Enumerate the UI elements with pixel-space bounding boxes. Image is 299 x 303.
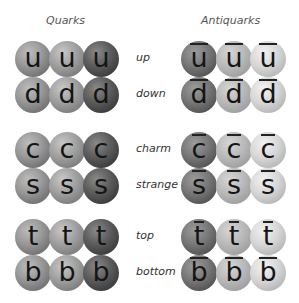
quark-ball-b: b xyxy=(49,255,85,291)
quark-ball-b: b xyxy=(15,255,51,291)
antiquark-symbol: c xyxy=(261,134,276,162)
antiquark-ball-t: t xyxy=(216,219,252,255)
quark-ball-c: c xyxy=(49,132,85,168)
flavor-label-up: up xyxy=(136,51,150,64)
quark-ball-d: d xyxy=(83,77,119,113)
quark-ball-c: c xyxy=(83,132,119,168)
quark-ball-t: t xyxy=(15,219,51,255)
antiquark-symbol: t xyxy=(194,221,205,249)
antiquark-symbol: b xyxy=(259,257,276,285)
quark-symbol: d xyxy=(58,80,75,107)
quark-symbol: d xyxy=(92,80,109,107)
antiquark-symbol: c xyxy=(227,134,242,162)
antiquark-symbol: s xyxy=(227,170,241,198)
quark-ball-s: s xyxy=(83,168,119,204)
antiquark-symbol: u xyxy=(190,43,207,71)
quark-symbol: t xyxy=(96,222,107,249)
antiquark-symbol: d xyxy=(225,79,242,107)
quark-ball-b: b xyxy=(83,255,119,291)
antiquark-ball-b: b xyxy=(216,255,252,291)
antiquark-ball-d: d xyxy=(181,77,217,113)
antiquark-ball-d: d xyxy=(250,77,286,113)
quark-ball-c: c xyxy=(15,132,51,168)
quark-symbol: c xyxy=(94,135,109,162)
heading-antiquarks: Antiquarks xyxy=(201,14,260,27)
antiquark-ball-t: t xyxy=(250,219,286,255)
quark-symbol: c xyxy=(60,135,75,162)
antiquark-symbol: b xyxy=(190,257,207,285)
quark-symbol: c xyxy=(26,135,41,162)
heading-quarks: Quarks xyxy=(46,14,85,27)
flavor-label-charm: charm xyxy=(136,142,171,155)
antiquark-symbol: d xyxy=(190,79,207,107)
quark-ball-d: d xyxy=(15,77,51,113)
antiquark-symbol: u xyxy=(259,43,276,71)
antiquark-ball-s: s xyxy=(250,168,286,204)
flavor-label-down: down xyxy=(136,87,166,100)
antiquark-symbol: s xyxy=(261,170,275,198)
antiquark-symbol: u xyxy=(225,43,242,71)
quark-symbol: s xyxy=(60,171,74,198)
antiquark-ball-c: c xyxy=(181,132,217,168)
quark-ball-s: s xyxy=(49,168,85,204)
quark-symbol: u xyxy=(24,44,41,71)
antiquark-ball-s: s xyxy=(216,168,252,204)
quark-symbol: u xyxy=(92,44,109,71)
quark-symbol: s xyxy=(26,171,40,198)
quark-ball-u: u xyxy=(49,41,85,77)
antiquark-ball-d: d xyxy=(216,77,252,113)
flavor-label-strange: strange xyxy=(136,178,178,191)
antiquark-ball-b: b xyxy=(250,255,286,291)
quark-ball-u: u xyxy=(15,41,51,77)
flavor-label-top: top xyxy=(136,229,154,242)
quark-ball-u: u xyxy=(83,41,119,77)
quark-symbol: u xyxy=(58,44,75,71)
quark-symbol: t xyxy=(28,222,39,249)
antiquark-ball-s: s xyxy=(181,168,217,204)
antiquark-ball-t: t xyxy=(181,219,217,255)
antiquark-ball-c: c xyxy=(216,132,252,168)
quark-symbol: b xyxy=(58,258,75,285)
antiquark-symbol: t xyxy=(263,221,274,249)
antiquark-ball-u: u xyxy=(216,41,252,77)
antiquark-symbol: c xyxy=(192,134,207,162)
quark-ball-s: s xyxy=(15,168,51,204)
quark-symbol: b xyxy=(92,258,109,285)
antiquark-ball-u: u xyxy=(250,41,286,77)
antiquark-symbol: d xyxy=(259,79,276,107)
quark-symbol: t xyxy=(62,222,73,249)
antiquark-ball-b: b xyxy=(181,255,217,291)
antiquark-ball-u: u xyxy=(181,41,217,77)
quark-symbol: d xyxy=(24,80,41,107)
quark-ball-t: t xyxy=(83,219,119,255)
antiquark-symbol: b xyxy=(225,257,242,285)
quark-symbol: s xyxy=(94,171,108,198)
antiquark-symbol: s xyxy=(192,170,206,198)
flavor-label-bottom: bottom xyxy=(136,265,176,278)
quark-ball-d: d xyxy=(49,77,85,113)
quark-ball-t: t xyxy=(49,219,85,255)
antiquark-symbol: t xyxy=(229,221,240,249)
antiquark-ball-c: c xyxy=(250,132,286,168)
quark-symbol: b xyxy=(24,258,41,285)
